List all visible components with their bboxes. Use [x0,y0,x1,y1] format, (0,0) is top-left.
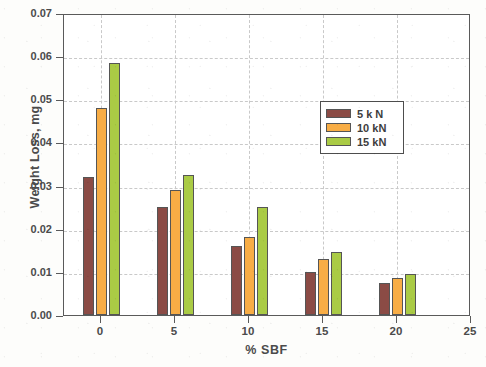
bar [183,175,194,315]
x-tick-label: 20 [376,325,416,337]
x-tick-mark [100,316,101,323]
bar [109,63,120,315]
x-tick-label: 10 [228,325,268,337]
y-tick-label: 0.03 [0,180,52,192]
bar [244,237,255,315]
bar [231,246,242,315]
bar [405,274,416,315]
bar [96,108,107,315]
legend-swatch [326,137,351,146]
x-tick-mark [396,316,397,323]
legend: 5 k N10 kN15 kN [320,101,404,154]
bar [83,177,94,315]
legend-label: 5 k N [357,108,383,120]
legend-label: 15 kN [357,136,386,148]
x-tick-label: 25 [450,325,486,337]
gridline-vertical [397,15,398,315]
bar [305,272,316,315]
y-tick-label: 0.04 [0,136,52,148]
bar [379,283,390,315]
y-tick-mark [56,14,63,15]
legend-label: 10 kN [357,122,386,134]
x-tick-label: 5 [154,325,194,337]
legend-item: 5 k N [326,107,398,120]
x-tick-mark [174,316,175,323]
bar [170,190,181,315]
gridline-horizontal [64,144,469,145]
gridline-horizontal [64,188,469,189]
y-tick-mark [56,57,63,58]
gridline-horizontal [64,101,469,102]
y-tick-label: 0.05 [0,93,52,105]
x-tick-label: 0 [80,325,120,337]
y-tick-mark [56,143,63,144]
legend-item: 10 kN [326,121,398,134]
legend-item: 15 kN [326,135,398,148]
y-tick-label: 0.00 [0,309,52,321]
y-tick-label: 0.07 [0,7,52,19]
y-tick-mark [56,100,63,101]
bar [331,252,342,315]
bar [257,207,268,315]
bar [318,259,329,315]
y-tick-mark [56,273,63,274]
x-tick-mark [248,316,249,323]
x-tick-mark [322,316,323,323]
y-tick-label: 0.01 [0,266,52,278]
y-tick-mark [56,316,63,317]
y-tick-mark [56,230,63,231]
x-axis-title: % SBF [63,343,470,357]
y-tick-mark [56,187,63,188]
gridline-horizontal [64,58,469,59]
x-tick-label: 15 [302,325,342,337]
x-tick-mark [470,316,471,323]
bar [157,207,168,315]
legend-swatch [326,123,351,132]
legend-swatch [326,109,351,118]
y-tick-label: 0.02 [0,223,52,235]
bar [392,278,403,315]
bar-chart-figure: Weight Loss, mg 5 k N10 kN15 kN 0.000.01… [0,0,486,367]
plot-area: 5 k N10 kN15 kN [63,14,470,316]
y-tick-label: 0.06 [0,50,52,62]
